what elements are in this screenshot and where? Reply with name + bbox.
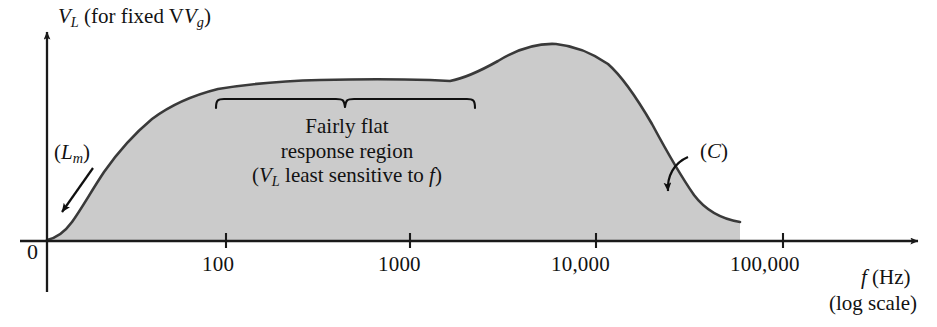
lm-paren-open: ( bbox=[54, 140, 61, 164]
flat-region-line-3: (VL least sensitive to f) bbox=[232, 163, 462, 190]
x-axis-title: f (Hz) bbox=[861, 266, 911, 290]
x-tick-label-100: 100 bbox=[202, 253, 234, 277]
flat-region-line-1: Fairly flat bbox=[232, 114, 462, 139]
plot-canvas bbox=[0, 0, 937, 327]
y-axis-symbol: V bbox=[58, 4, 71, 28]
y-axis-paren-close: ) bbox=[204, 4, 211, 28]
flat-line3-sub: L bbox=[272, 173, 280, 189]
y-axis-subscript-2: g bbox=[197, 14, 204, 30]
x-axis-unit: (Hz) bbox=[867, 265, 911, 289]
y-axis-subscript: L bbox=[71, 14, 79, 30]
lm-subscript: m bbox=[73, 150, 83, 166]
flat-line3-v: V bbox=[259, 163, 272, 187]
flat-line3-paren-close: ) bbox=[435, 163, 442, 187]
frequency-response-figure: VL (for fixed VVg) 0 100 1000 10,000 100… bbox=[0, 0, 937, 327]
flat-region-line-2: response region bbox=[232, 139, 462, 164]
lm-paren-close: ) bbox=[83, 140, 90, 164]
origin-label: 0 bbox=[27, 240, 38, 265]
c-symbol: C bbox=[707, 139, 721, 163]
flat-line3-mid: least sensitive to bbox=[280, 163, 429, 187]
y-axis-symbol-2: V bbox=[184, 4, 197, 28]
x-tick-label-100000: 100,000 bbox=[730, 253, 800, 277]
c-paren-open: ( bbox=[700, 139, 707, 163]
flat-region-caption: Fairly flat response region (VL least se… bbox=[232, 114, 462, 190]
high-frequency-label: (C) bbox=[700, 140, 728, 164]
low-frequency-label: (Lm) bbox=[54, 141, 90, 166]
y-axis-qualifier: (for fixed V bbox=[79, 4, 184, 28]
flat-line3-paren-open: ( bbox=[252, 163, 259, 187]
lm-symbol: L bbox=[61, 140, 73, 164]
x-axis-scale-note: (log scale) bbox=[829, 292, 917, 316]
x-tick-label-10000: 10,000 bbox=[551, 253, 610, 277]
x-tick-label-1000: 1000 bbox=[378, 253, 421, 277]
c-paren-close: ) bbox=[721, 139, 728, 163]
y-axis-title: VL (for fixed VVg) bbox=[58, 5, 211, 30]
